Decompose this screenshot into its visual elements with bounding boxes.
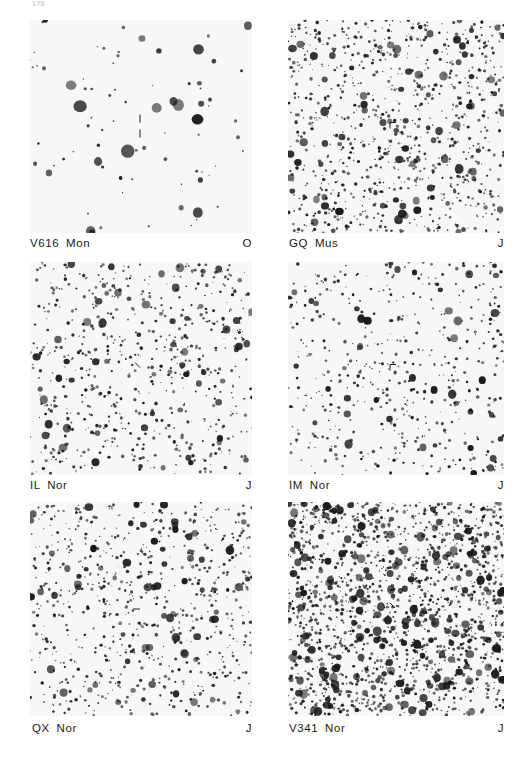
plate-code: O — [242, 237, 252, 249]
caption-v341-nor: V341 Nor J — [289, 722, 504, 734]
star-name: V341 Nor — [289, 722, 345, 734]
star-field-image — [30, 20, 252, 233]
caption-qx-nor: QX Nor J — [32, 722, 252, 734]
finding-chart-qx-nor — [30, 502, 252, 716]
caption-v616-mon: V616 Mon O — [30, 237, 252, 249]
plate-code: J — [246, 722, 252, 734]
star-name: V616 Mon — [30, 237, 90, 249]
plate-code: J — [498, 237, 504, 249]
finding-chart-il-nor — [30, 262, 252, 475]
plate-code: J — [246, 479, 252, 491]
star-name: GQ Mus — [289, 237, 338, 249]
star-name: IM Nor — [289, 479, 330, 491]
star-field-image — [288, 262, 504, 475]
target-marker — [135, 363, 140, 368]
star-name: QX Nor — [32, 722, 77, 734]
plate-code: J — [498, 722, 504, 734]
caption-gq-mus: GQ Mus J — [289, 237, 504, 249]
target-marker — [390, 365, 396, 371]
finding-chart-v341-nor — [288, 502, 504, 716]
star-field-image — [30, 262, 252, 475]
caption-il-nor: IL Nor J — [30, 479, 252, 491]
star-field-image — [288, 502, 504, 716]
finding-chart-im-nor — [288, 262, 504, 475]
star-name: IL Nor — [30, 479, 68, 491]
page-number: 178 — [32, 0, 45, 7]
caption-im-nor: IM Nor J — [289, 479, 504, 491]
star-field-image — [288, 20, 504, 233]
star-field-image — [30, 502, 252, 716]
finding-chart-gq-mus — [288, 20, 504, 233]
plate-code: J — [498, 479, 504, 491]
finding-chart-v616-mon — [30, 20, 252, 233]
